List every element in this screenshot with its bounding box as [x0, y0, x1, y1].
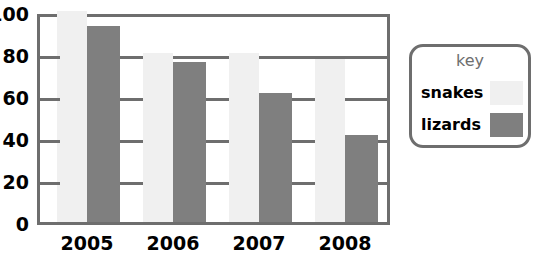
legend-title: key [412, 51, 528, 70]
x-tick-label-2006: 2006 [147, 232, 200, 254]
y-tick-label-20: 20 [0, 171, 29, 193]
tick-stub-right-40 [378, 140, 387, 143]
y-tick-label-0: 0 [0, 213, 29, 235]
bar-lizards-2008 [345, 135, 378, 222]
tick-stub-mid1-80 [120, 56, 143, 59]
legend-swatch-lizards [490, 113, 523, 137]
bar-snakes-2008 [315, 59, 345, 222]
bar-snakes-2007 [229, 53, 259, 222]
bar-lizards-2006 [173, 62, 206, 222]
tick-stub-mid3-40 [292, 140, 315, 143]
y-tick-label-60: 60 [0, 87, 29, 109]
tick-stub-mid2-40 [206, 140, 229, 143]
y-axis-tick-labels: 100 80 60 40 20 0 [0, 0, 33, 265]
tick-stub-mid2-60 [206, 98, 229, 101]
tick-stub-mid3-20 [292, 182, 315, 185]
tick-stub-mid1-60 [120, 98, 143, 101]
bar-chart-figure: 100 80 60 40 20 0 [0, 0, 537, 265]
legend-entry-snakes: snakes [421, 81, 525, 107]
x-tick-label-2008: 2008 [319, 232, 372, 254]
tick-stub-mid1-40 [120, 140, 143, 143]
x-tick-label-2005: 2005 [61, 232, 114, 254]
legend-entry-lizards: lizards [421, 113, 525, 139]
tick-stub-right-20 [378, 182, 387, 185]
tick-stub-left-20 [40, 182, 60, 185]
tick-stub-left-40 [40, 140, 60, 143]
y-tick-label-80: 80 [0, 45, 29, 67]
plot-area [37, 14, 390, 225]
legend-swatch-snakes [490, 81, 523, 105]
legend-label-snakes: snakes [421, 83, 483, 102]
tick-stub-mid2-20 [206, 182, 229, 185]
tick-stub-mid1-20 [120, 182, 143, 185]
x-axis-tick-labels: 2005 2006 2007 2008 [37, 232, 390, 260]
bar-lizards-2005 [87, 26, 120, 222]
legend-label-lizards: lizards [421, 115, 481, 134]
y-tick-label-100: 100 [0, 3, 29, 25]
chart-legend: key snakes lizards [409, 44, 531, 148]
bar-lizards-2007 [259, 93, 292, 222]
tick-stub-left-80 [40, 56, 60, 59]
tick-stub-left-60 [40, 98, 60, 101]
y-tick-label-40: 40 [0, 129, 29, 151]
bar-snakes-2005 [57, 11, 87, 222]
x-tick-label-2007: 2007 [233, 232, 286, 254]
bar-snakes-2006 [143, 53, 173, 222]
